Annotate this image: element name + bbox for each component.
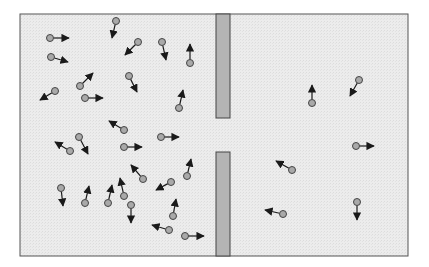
particle-dot: [140, 176, 147, 183]
particle-dot: [47, 35, 54, 42]
particle-dot: [126, 73, 133, 80]
particle-dot: [48, 54, 55, 61]
particle-dot: [113, 18, 120, 25]
particle-dot: [187, 60, 194, 67]
particle-dot: [159, 39, 166, 46]
particle-dot: [82, 95, 89, 102]
particle-dot: [289, 167, 296, 174]
particle-dot: [158, 134, 165, 141]
particle-dot: [121, 144, 128, 151]
particle-dot: [121, 193, 128, 200]
particle-dot: [128, 202, 135, 209]
particle-dot: [280, 211, 287, 218]
particle-dot: [184, 173, 191, 180]
particle-dot: [82, 200, 89, 207]
particle-dot: [77, 83, 84, 90]
particle-dot: [105, 200, 112, 207]
particle-dot: [135, 39, 142, 46]
particle-dot: [67, 148, 74, 155]
particle-dot: [356, 77, 363, 84]
particle-dot: [309, 100, 316, 107]
wall-top-segment: [216, 14, 230, 118]
diagram-stage: [0, 0, 429, 267]
particle-dot: [52, 88, 59, 95]
wall-bottom-segment: [216, 152, 230, 256]
particle-dot: [166, 227, 173, 234]
particle-dot: [170, 213, 177, 220]
particle-dot: [353, 143, 360, 150]
particle-dot: [121, 127, 128, 134]
particle-dot: [168, 179, 175, 186]
particle-dot: [76, 134, 83, 141]
particle-dot: [176, 105, 183, 112]
gas-diffusion-diagram: [0, 0, 429, 267]
particle-dot: [58, 185, 65, 192]
particle-dot: [182, 233, 189, 240]
particle-dot: [354, 199, 361, 206]
